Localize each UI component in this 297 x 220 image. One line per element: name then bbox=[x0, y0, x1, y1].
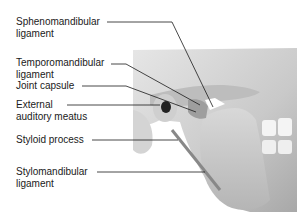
label-styloid-process: Styloid process bbox=[16, 134, 84, 146]
label-temporomandibular-ligament: Temporomandibular ligament bbox=[16, 57, 104, 81]
tooth bbox=[278, 118, 292, 136]
label-sphenomandibular-ligament: Sphenomandibular ligament bbox=[16, 16, 100, 40]
label-text: auditory meatus bbox=[16, 111, 87, 123]
label-text: Joint capsule bbox=[16, 80, 74, 92]
label-external-auditory-meatus: External auditory meatus bbox=[16, 99, 87, 123]
label-text: Styloid process bbox=[16, 134, 84, 146]
tooth bbox=[262, 140, 276, 154]
label-text: ligament bbox=[16, 178, 88, 190]
tooth bbox=[262, 120, 276, 136]
label-text: Temporomandibular bbox=[16, 57, 104, 69]
label-text: External bbox=[16, 99, 87, 111]
auditory-meatus-opening bbox=[161, 101, 171, 113]
tmj-ligaments-diagram: Sphenomandibular ligament Temporomandibu… bbox=[0, 0, 297, 220]
label-stylomandibular-ligament: Stylomandibular ligament bbox=[16, 166, 88, 190]
tooth bbox=[278, 140, 292, 154]
label-text: Sphenomandibular bbox=[16, 16, 100, 28]
label-text: ligament bbox=[16, 28, 100, 40]
label-text: Stylomandibular bbox=[16, 166, 88, 178]
label-joint-capsule: Joint capsule bbox=[16, 80, 74, 92]
